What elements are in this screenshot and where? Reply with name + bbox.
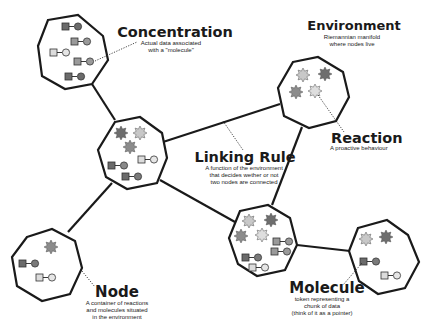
- reaction-icon: [123, 140, 137, 154]
- label-title: Linking Rule: [194, 149, 295, 165]
- pointer-linking-rule: [223, 121, 243, 150]
- edge-e-f: [297, 245, 350, 251]
- label-environment: Environment Riemannian manifold where no…: [307, 18, 401, 47]
- reaction-icon: [255, 228, 269, 242]
- label-title: Reaction: [331, 130, 403, 146]
- label-desc-line: two nodes are connected: [210, 179, 277, 185]
- label-title: Environment: [307, 18, 401, 33]
- label-desc-line: A function of the environment: [205, 165, 283, 171]
- label-desc-line: chunk of data: [304, 303, 341, 309]
- reaction-icon: [289, 85, 303, 99]
- edge-a-b: [92, 84, 115, 120]
- environment-diagram: Concentration Actual data associated wit…: [0, 0, 434, 326]
- label-desc-line: Actual data associated: [141, 40, 201, 46]
- reaction-icon: [234, 229, 248, 243]
- label-desc-line: where nodes live: [328, 41, 375, 47]
- label-concentration: Concentration Actual data associated wit…: [117, 24, 233, 53]
- label-desc-line: in the environment: [92, 314, 142, 320]
- reaction-icon: [308, 84, 322, 98]
- reaction-icon: [114, 126, 128, 140]
- label-node: Node A container of reactions and molecu…: [86, 283, 149, 320]
- node-c[interactable]: [278, 57, 349, 128]
- reaction-icon: [44, 240, 58, 254]
- node-a[interactable]: [38, 15, 108, 89]
- edge-b-e: [160, 180, 235, 222]
- label-desc-line: A container of reactions: [86, 300, 149, 306]
- label-molecule: Molecule token representing a chunk of d…: [289, 279, 364, 316]
- label-title: Concentration: [117, 24, 233, 40]
- reaction-icon: [379, 230, 393, 244]
- reaction-icon: [264, 213, 278, 227]
- label-desc-line: and molecules situated: [86, 307, 147, 313]
- reaction-icon: [359, 232, 373, 246]
- node-b[interactable]: [98, 117, 167, 189]
- label-linking-rule: Linking Rule A function of the environme…: [194, 149, 295, 185]
- label-title: Node: [95, 283, 139, 301]
- reaction-icon: [242, 214, 256, 228]
- edge-b-d: [68, 183, 112, 232]
- reaction-icon: [133, 126, 147, 140]
- label-desc-line: with a "molecule": [147, 47, 194, 53]
- label-reaction: Reaction A proactive behaviour: [330, 130, 403, 151]
- label-desc-line: Riemannian manifold: [324, 34, 380, 40]
- edge-b-c: [163, 104, 280, 142]
- label-title: Molecule: [289, 279, 364, 297]
- label-desc-line: token representing a: [295, 296, 350, 302]
- reaction-icon: [296, 68, 310, 82]
- label-desc-line: A proactive behaviour: [330, 145, 388, 151]
- node-e[interactable]: [229, 205, 297, 276]
- node-d[interactable]: [12, 229, 82, 301]
- label-desc-line: (think of it as a pointer): [291, 310, 352, 316]
- pointer-node: [82, 271, 95, 287]
- label-desc-line: that decides wether or not: [209, 172, 278, 178]
- reaction-icon: [318, 67, 332, 81]
